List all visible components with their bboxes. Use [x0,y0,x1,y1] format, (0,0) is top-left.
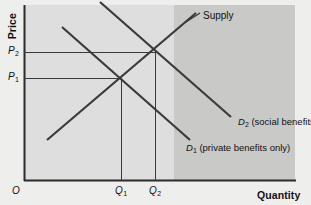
demand-social-symbol: D [238,116,245,127]
x-tick-label-q2-subscript: 2 [157,190,161,197]
y-tick-label-p1-subscript: 1 [15,76,19,83]
x-tick-label-q2-symbol: Q [149,185,157,196]
y-tick-label-p2-symbol: P [8,45,15,56]
demand-private-subscript: 1 [193,147,197,154]
y-tick-label-p1: P1 [8,72,19,82]
demand-social-subscript: 2 [245,121,249,128]
x-tick-label-q2: Q2 [149,186,161,196]
demand-private-note: (private benefits only) [199,142,290,153]
economics-supply-demand-figure: Price Quantity O P2 P1 Q1 Q2 Supply D2 (… [0,0,311,205]
plot-canvas [0,0,311,205]
y-tick-label-p1-symbol: P [8,71,15,82]
y-axis-title: Price [7,5,18,47]
origin-label: O [12,186,20,196]
supply-curve-label: Supply [203,11,234,21]
x-tick-label-q1-symbol: Q [115,185,123,196]
x-tick-label-q1-subscript: 1 [123,190,127,197]
y-tick-label-p2: P2 [8,46,19,56]
demand-private-symbol: D [186,142,193,153]
demand-social-curve-label: D2 (social benefits) [238,117,311,127]
demand-private-curve-label: D1 (private benefits only) [186,143,290,153]
demand-curve-private [62,27,190,140]
y-tick-label-p2-subscript: 2 [15,50,19,57]
x-tick-label-q1: Q1 [115,186,127,196]
demand-social-note: (social benefits) [251,116,311,127]
x-axis-title: Quantity [257,190,300,201]
